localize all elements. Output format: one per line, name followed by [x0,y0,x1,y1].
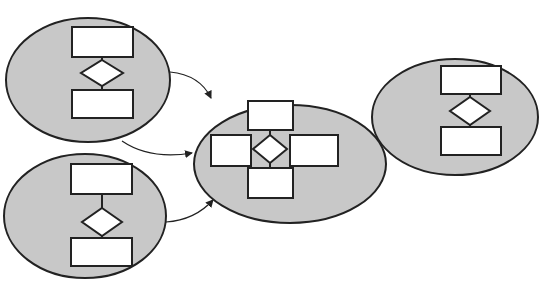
cash-receipt-box [441,127,501,155]
labor-arrow [166,200,213,222]
value-chain-diagram [0,0,549,293]
conversion-process [194,101,386,223]
revenue-process [372,59,538,175]
cash-disbursement-box [72,90,133,118]
human-resources-process [4,154,166,278]
cash-disbursement-box [71,238,132,266]
machine-operation-box [248,168,293,198]
materials-arrow [122,141,192,155]
labor-operation-box [248,101,293,130]
machinery-arrow [170,72,211,98]
material-issue-box [211,135,251,166]
labor-box [71,164,132,194]
sale-box [441,66,501,94]
acquisition-payment-process [6,18,170,142]
production-run-box [290,135,338,166]
acquisition-box [72,27,133,57]
